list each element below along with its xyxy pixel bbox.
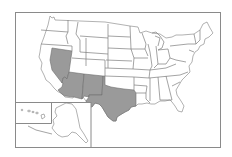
us-map	[0, 0, 232, 157]
inset-box	[16, 103, 92, 148]
